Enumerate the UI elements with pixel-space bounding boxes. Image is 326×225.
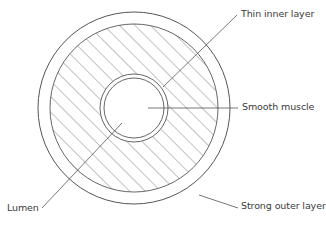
label-thin-inner-layer: Thin inner layer (241, 8, 314, 19)
label-strong-outer-layer: Strong outer layer (241, 200, 326, 211)
label-smooth-muscle: Smooth muscle (242, 101, 314, 112)
label-lumen: Lumen (7, 202, 39, 213)
